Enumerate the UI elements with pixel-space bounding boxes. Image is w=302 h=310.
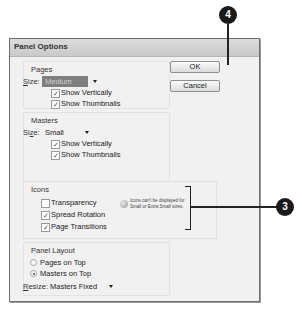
spread-rotation-checkbox[interactable]: ✓	[41, 211, 50, 220]
info-icon	[120, 200, 128, 208]
masters-show-vertically-checkbox[interactable]: ✓	[51, 140, 60, 149]
pages-size-label: Size:	[23, 77, 40, 86]
pages-on-top-label: Pages on Top	[40, 258, 86, 267]
page-transitions-checkbox[interactable]: ✓	[41, 223, 50, 232]
resize-label: Resize:	[23, 282, 48, 291]
callout-badge-3: 3	[276, 198, 294, 216]
icons-group-label: Icons	[31, 185, 49, 194]
callout-line-icons	[190, 206, 277, 208]
dialog-title: Panel Options	[14, 42, 68, 51]
panel-layout-group: Panel Layout Pages on Top Masters on Top…	[23, 242, 170, 296]
chevron-down-icon[interactable]	[93, 80, 97, 83]
pages-show-thumbnails-label: Show Thumbnails	[61, 99, 120, 108]
pages-show-vertically-label: Show Vertically	[61, 88, 112, 97]
icons-bracket	[185, 186, 191, 230]
callout-badge-4: 4	[219, 6, 237, 24]
transparency-label: Transparency	[51, 198, 97, 207]
pages-group: Pages Size: Medium ✓ Show Vertically ✓ S…	[23, 61, 170, 109]
masters-on-top-radio[interactable]	[30, 270, 37, 277]
pages-group-label: Pages	[31, 65, 52, 74]
chevron-down-icon[interactable]	[85, 131, 89, 134]
masters-group: Masters Size: Small ✓ Show Vertically ✓ …	[23, 112, 170, 182]
title-bar[interactable]: Panel Options	[10, 39, 259, 57]
ok-button[interactable]: OK	[170, 61, 220, 73]
spread-rotation-label: Spread Rotation	[51, 210, 105, 219]
masters-show-thumbnails-checkbox[interactable]: ✓	[51, 151, 60, 160]
masters-show-vertically-label: Show Vertically	[61, 139, 112, 148]
masters-size-select[interactable]: Small	[42, 127, 88, 138]
callout-line-ok	[227, 24, 229, 65]
pages-show-thumbnails-checkbox[interactable]: ✓	[51, 100, 60, 109]
chevron-down-icon[interactable]	[109, 285, 113, 288]
cancel-button[interactable]: Cancel	[170, 80, 220, 92]
page-transitions-label: Page Transitions	[51, 222, 107, 231]
masters-show-thumbnails-label: Show Thumbnails	[61, 150, 120, 159]
panel-options-dialog: Panel Options OK Cancel Pages Size: Medi…	[9, 38, 260, 302]
resize-select[interactable]: Masters Fixed	[47, 281, 107, 292]
masters-size-label: Size:	[23, 128, 40, 137]
masters-group-label: Masters	[31, 116, 58, 125]
panel-layout-group-label: Panel Layout	[31, 246, 75, 255]
masters-on-top-label: Masters on Top	[40, 269, 91, 278]
pages-size-select[interactable]: Medium	[42, 76, 88, 87]
pages-on-top-radio[interactable]	[30, 259, 37, 266]
pages-show-vertically-checkbox[interactable]: ✓	[51, 89, 60, 98]
transparency-checkbox[interactable]	[41, 199, 50, 208]
